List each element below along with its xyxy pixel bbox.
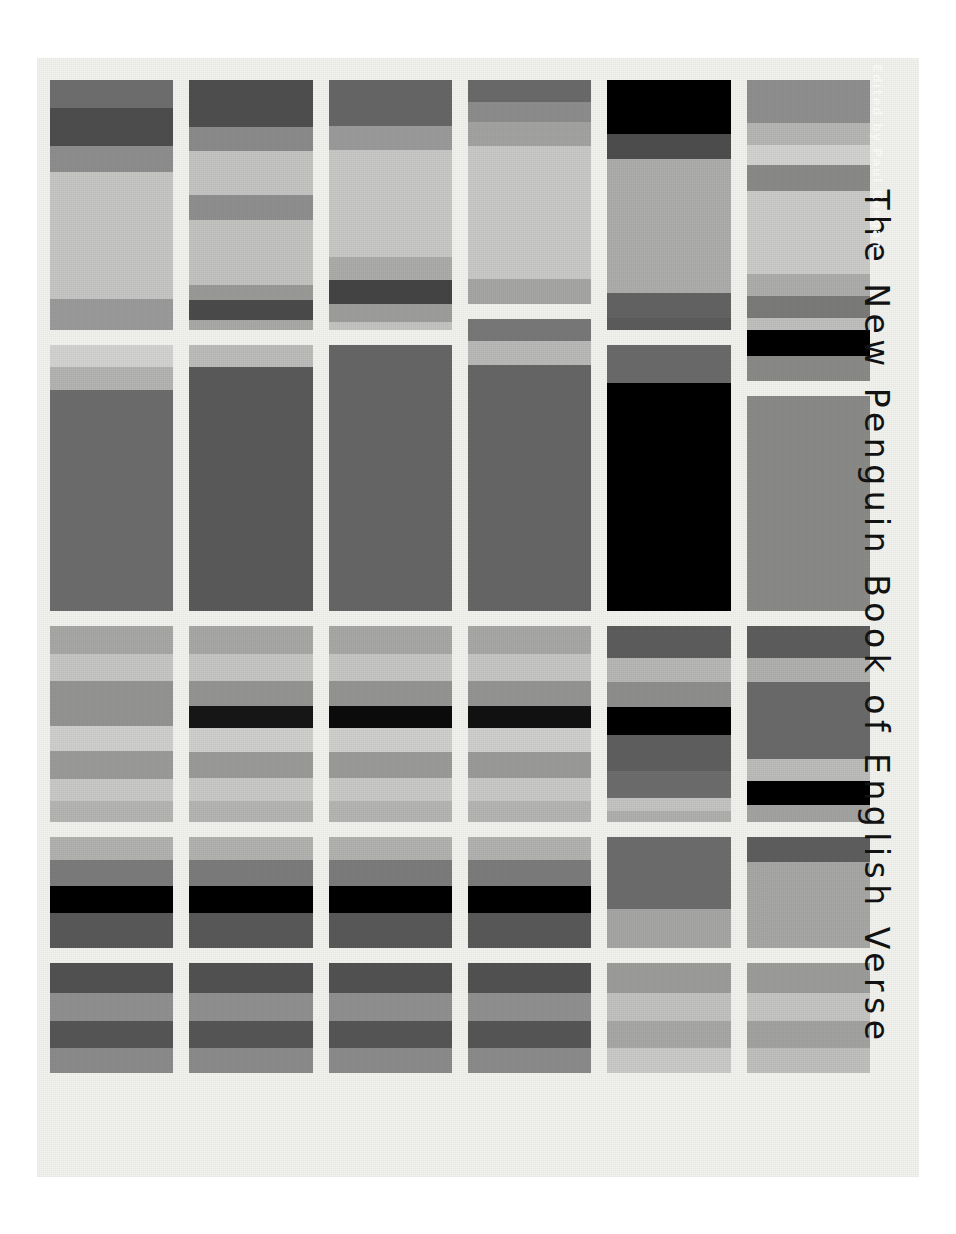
colour-stripe — [747, 274, 870, 296]
colour-stripe — [329, 993, 452, 1021]
band-column — [747, 80, 870, 1094]
colour-stripe — [329, 963, 452, 993]
colour-stripe — [329, 322, 452, 330]
colour-band-grid — [50, 80, 870, 1094]
colour-stripe — [50, 367, 173, 390]
colour-stripe — [607, 383, 730, 611]
colour-stripe — [189, 151, 312, 195]
colour-stripe — [329, 654, 452, 681]
colour-stripe — [329, 80, 452, 126]
colour-stripe — [747, 396, 870, 611]
colour-stripe — [50, 108, 173, 146]
colour-stripe — [468, 102, 591, 122]
colour-stripe — [50, 751, 173, 779]
colour-stripe — [329, 837, 452, 860]
colour-stripe — [50, 146, 173, 172]
colour-stripe — [50, 1021, 173, 1048]
colour-stripe — [747, 837, 870, 862]
colour-stripe — [607, 293, 730, 318]
band-cell — [189, 626, 312, 822]
colour-stripe — [607, 134, 730, 159]
colour-stripe — [189, 913, 312, 948]
editor-credit: Edited by Paul Keegan — [870, 64, 884, 250]
colour-stripe — [468, 913, 591, 948]
colour-stripe — [189, 345, 312, 367]
band-cell — [189, 837, 312, 948]
colour-stripe — [189, 1021, 312, 1048]
colour-stripe — [329, 801, 452, 822]
band-cell — [329, 837, 452, 948]
colour-stripe — [50, 913, 173, 948]
colour-stripe — [189, 367, 312, 611]
colour-stripe — [468, 1048, 591, 1073]
colour-stripe — [329, 913, 452, 948]
colour-stripe — [329, 126, 452, 150]
colour-stripe — [747, 80, 870, 123]
band-cell — [747, 837, 870, 948]
colour-stripe — [747, 759, 870, 781]
colour-stripe — [607, 80, 730, 134]
band-cell — [468, 837, 591, 948]
colour-stripe — [50, 345, 173, 367]
colour-stripe — [468, 279, 591, 304]
band-cell — [747, 626, 870, 822]
band-cell — [189, 80, 312, 330]
colour-stripe — [747, 330, 870, 356]
colour-stripe — [468, 752, 591, 778]
colour-stripe — [189, 195, 312, 220]
colour-stripe — [607, 735, 730, 771]
colour-stripe — [50, 779, 173, 801]
band-column — [50, 80, 173, 1094]
colour-stripe — [50, 172, 173, 299]
colour-stripe — [189, 886, 312, 913]
colour-stripe — [468, 837, 591, 860]
band-column — [607, 80, 730, 1094]
band-cell — [189, 345, 312, 611]
band-cell — [607, 963, 730, 1073]
colour-stripe — [189, 285, 312, 300]
colour-stripe — [607, 318, 730, 330]
band-cell — [50, 837, 173, 948]
colour-stripe — [189, 220, 312, 285]
colour-stripe — [329, 778, 452, 801]
band-cell — [329, 963, 452, 1073]
book-cover: The New Penguin Book of English Verse Ed… — [37, 58, 919, 1177]
colour-stripe — [607, 159, 730, 293]
colour-stripe — [50, 886, 173, 913]
colour-stripe — [329, 681, 452, 706]
colour-stripe — [189, 860, 312, 886]
colour-stripe — [50, 1048, 173, 1073]
colour-stripe — [50, 993, 173, 1021]
colour-stripe — [189, 654, 312, 681]
colour-stripe — [50, 726, 173, 751]
colour-stripe — [189, 752, 312, 778]
colour-stripe — [607, 345, 730, 383]
colour-stripe — [607, 963, 730, 993]
colour-stripe — [329, 860, 452, 886]
colour-stripe — [468, 706, 591, 728]
colour-stripe — [189, 300, 312, 320]
band-cell — [50, 80, 173, 330]
colour-stripe — [747, 862, 870, 948]
colour-stripe — [189, 778, 312, 801]
colour-stripe — [607, 798, 730, 811]
colour-stripe — [607, 771, 730, 798]
band-cell — [747, 963, 870, 1073]
colour-stripe — [747, 296, 870, 318]
band-cell — [607, 837, 730, 948]
band-cell — [468, 80, 591, 304]
band-cell — [468, 963, 591, 1073]
colour-stripe — [189, 80, 312, 127]
colour-stripe — [189, 801, 312, 822]
colour-stripe — [50, 390, 173, 611]
colour-stripe — [468, 122, 591, 146]
colour-stripe — [607, 1048, 730, 1073]
colour-stripe — [189, 706, 312, 728]
colour-stripe — [468, 341, 591, 365]
colour-stripe — [329, 345, 452, 611]
colour-stripe — [747, 191, 870, 274]
colour-stripe — [329, 304, 452, 322]
colour-stripe — [747, 1021, 870, 1048]
colour-stripe — [468, 1021, 591, 1048]
colour-stripe — [329, 257, 452, 280]
